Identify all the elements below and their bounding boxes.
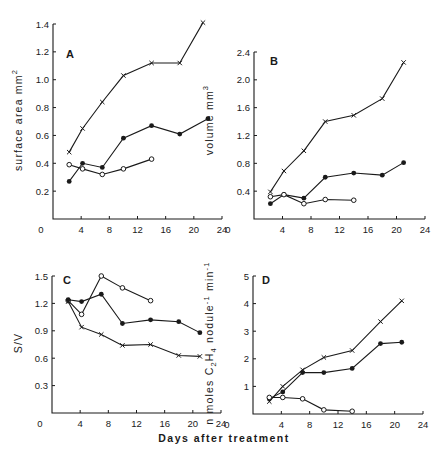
cross-marker [401, 60, 405, 64]
filled-circle-marker [80, 161, 85, 166]
y-tick-label: 0.9 [35, 325, 48, 336]
x-tick-label: 0 [224, 419, 229, 430]
filled-circle-marker [280, 390, 285, 395]
filled-circle-marker [100, 165, 105, 170]
series-line [69, 119, 208, 182]
x-tick-label: 16 [363, 224, 374, 235]
filled-circle-marker [301, 196, 306, 201]
y-tick-label: 1.5 [35, 271, 48, 282]
y-tick-label: 4 [244, 298, 249, 309]
panel-label: D [262, 274, 270, 286]
y-tick-label: 0.3 [35, 380, 48, 391]
axes [53, 24, 222, 219]
cross-marker [121, 73, 125, 77]
y-tick-label: 0.8 [237, 158, 250, 169]
x-tick-label: 4 [279, 419, 284, 430]
filled-circle-marker [176, 319, 181, 324]
y-tick-label: 1.2 [35, 298, 48, 309]
series-cross [66, 299, 202, 358]
x-tick-label: 4 [79, 224, 84, 235]
x-tick-label: 20 [389, 419, 400, 430]
filled-circle-marker [79, 299, 84, 304]
filled-circle-marker [148, 317, 153, 322]
open-circle-marker [268, 194, 273, 199]
x-tick-label: 20 [188, 418, 199, 429]
filled-circle-marker [321, 370, 326, 375]
series-line [270, 62, 403, 191]
open-circle-marker [280, 395, 285, 400]
filled-circle-marker [300, 370, 305, 375]
y-tick-label: 1.4 [36, 19, 49, 30]
cross-marker [268, 190, 272, 194]
cross-marker [281, 384, 285, 388]
cross-marker [80, 126, 84, 130]
series-line [269, 342, 401, 399]
filled-circle-marker [177, 132, 182, 137]
x-tick-label: 12 [334, 224, 345, 235]
y-tick-label: 2.0 [237, 74, 250, 85]
series-cross [267, 299, 404, 404]
x-tick-label: 12 [333, 419, 344, 430]
cross-marker [378, 319, 382, 323]
filled-circle-marker [401, 160, 406, 165]
series-open [268, 192, 356, 206]
filled-circle-marker [120, 321, 125, 326]
open-circle-marker [99, 274, 104, 279]
open-circle-marker [322, 408, 327, 413]
open-circle-marker [79, 312, 84, 317]
series-open [267, 395, 354, 413]
open-circle-marker [350, 409, 355, 414]
series-filled [67, 116, 211, 183]
y-tick-label: 0.2 [36, 186, 49, 197]
filled-circle-marker [99, 292, 104, 297]
y-tick-label: 0.4 [237, 186, 250, 197]
chart-panel-b: 048121620240.40.81.21.62.02.4Bvolume mm3 [201, 47, 430, 236]
axes [253, 276, 423, 414]
series-open [66, 274, 153, 317]
x-tick-label: 16 [159, 418, 170, 429]
x-tick-label: 20 [189, 224, 200, 235]
series-line [68, 302, 200, 357]
filled-circle-marker [197, 330, 202, 335]
chart-panel-d: 0481216202412345Dn moles C2H4 nodule-1 m… [202, 261, 428, 430]
x-tick-label: 0 [37, 418, 42, 429]
y-tick-label: 1.6 [237, 102, 250, 113]
series-cross [67, 20, 205, 154]
filled-circle-marker [399, 340, 404, 345]
filled-circle-marker [323, 175, 328, 180]
open-circle-marker [300, 397, 305, 402]
y-tick-label: 1 [244, 381, 249, 392]
filled-circle-marker [121, 136, 126, 141]
filled-circle-marker [149, 123, 154, 128]
open-circle-marker [323, 197, 328, 202]
x-tick-label: 0 [225, 224, 230, 235]
cross-marker [67, 150, 71, 154]
y-tick-label: 1.0 [36, 74, 49, 85]
y-tick-label: 0.8 [36, 102, 49, 113]
y-axis-label: n moles C2H4 nodule-1 min-1 [202, 261, 218, 424]
open-circle-marker [351, 198, 356, 203]
panel-label: C [63, 274, 71, 286]
y-tick-label: 1.2 [36, 46, 49, 57]
x-tick-label: 8 [307, 419, 312, 430]
axes [254, 52, 425, 219]
cross-marker [400, 299, 404, 303]
y-tick-label: 0.6 [36, 130, 49, 141]
cross-marker [100, 100, 104, 104]
x-tick-label: 0 [38, 224, 43, 235]
x-tick-label: 4 [78, 418, 83, 429]
series-filled [267, 340, 404, 401]
open-circle-marker [80, 167, 85, 172]
filled-circle-marker [380, 173, 385, 178]
open-circle-marker [67, 162, 72, 167]
y-axis-label: volume mm3 [201, 85, 215, 155]
y-tick-label: 1.2 [237, 130, 250, 141]
open-circle-marker [148, 298, 153, 303]
series-line [68, 276, 150, 314]
cross-marker [302, 149, 306, 153]
open-circle-marker [282, 192, 287, 197]
x-tick-label: 16 [361, 419, 372, 430]
y-axis-label: S/V [12, 333, 24, 354]
figure-canvas: 048121620240.20.40.60.81.01.21.4Asurface… [0, 0, 448, 458]
panel-label: A [66, 48, 74, 60]
